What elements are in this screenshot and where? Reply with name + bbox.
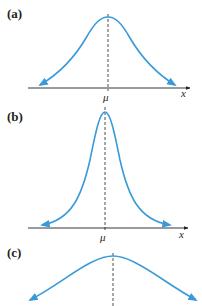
- panel-b: [28, 107, 188, 231]
- x-label-a: x: [181, 87, 186, 99]
- normal-curve-b: [42, 112, 170, 225]
- panel-label-b: (b): [7, 109, 23, 125]
- panel-c: [30, 253, 196, 306]
- mu-label-a: μ: [103, 91, 109, 103]
- panel-label-a: (a): [7, 6, 22, 22]
- panel-label-c: (c): [7, 245, 21, 261]
- panel-a: [28, 14, 190, 91]
- x-label-b: x: [179, 228, 184, 240]
- normal-curve-a: [40, 17, 175, 85]
- normal-curves-figure: [0, 0, 202, 306]
- mu-label-b: μ: [100, 231, 106, 243]
